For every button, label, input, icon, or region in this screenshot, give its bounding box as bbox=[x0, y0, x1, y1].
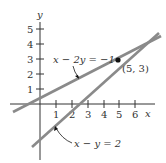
x-tick-label: 5 bbox=[116, 109, 122, 120]
y-tick-label: 5 bbox=[27, 24, 33, 35]
y-tick-label: 3 bbox=[27, 54, 33, 65]
line-x-minus-y-eq-2 bbox=[32, 33, 159, 147]
y-tick-label: 4 bbox=[27, 39, 33, 50]
x-tick-label: 1 bbox=[53, 109, 59, 120]
y-tick-label: 2 bbox=[27, 69, 33, 80]
x-tick-label: 6 bbox=[132, 109, 138, 120]
x-tick-label: 4 bbox=[101, 109, 107, 120]
graph-canvas: 1 2 3 4 5 1 2 3 4 5 6 x y (5, 3) x − 2y … bbox=[0, 0, 166, 163]
intersection-label: (5, 3) bbox=[122, 63, 149, 74]
equation-label-1: x − 2y = −1 bbox=[53, 54, 115, 65]
y-tick-label: 1 bbox=[27, 84, 33, 95]
x-tick-label: 3 bbox=[85, 109, 91, 120]
y-axis-label: y bbox=[36, 9, 43, 20]
x-axis-label: x bbox=[145, 108, 151, 119]
arrow-to-line-2 bbox=[56, 128, 72, 143]
equation-label-2: x − y = 2 bbox=[74, 138, 121, 149]
intersection-point bbox=[115, 57, 120, 62]
line-x-minus-2y-eq-neg1 bbox=[13, 36, 161, 112]
